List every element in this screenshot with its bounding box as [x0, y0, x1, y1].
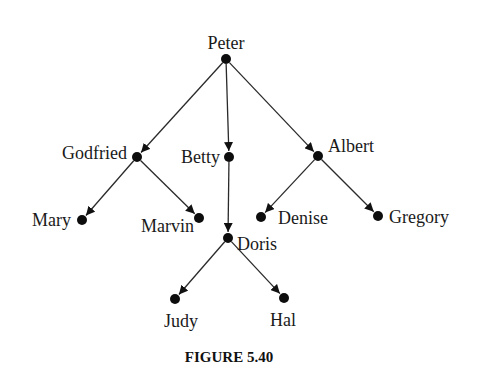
edge-peter-to-albert — [229, 63, 313, 152]
nodes-group — [77, 54, 383, 304]
node-gregory — [373, 211, 383, 221]
node-label-betty: Betty — [181, 147, 220, 167]
node-peter — [221, 54, 231, 64]
node-label-denise: Denise — [278, 208, 328, 228]
node-label-marvin: Marvin — [141, 216, 194, 236]
edge-doris-to-judy — [179, 242, 225, 295]
node-label-albert: Albert — [328, 136, 374, 156]
node-betty — [224, 152, 234, 162]
edge-albert-to-denise — [265, 160, 314, 213]
node-label-godfried: Godfried — [62, 143, 127, 163]
edge-peter-to-godfried — [141, 63, 223, 153]
node-denise — [256, 212, 266, 222]
edge-godfried-to-mary — [86, 161, 134, 216]
edges-group — [86, 63, 374, 295]
tree-diagram: PeterGodfriedBettyAlbertMaryMarvinDorisD… — [0, 0, 489, 377]
edge-peter-to-betty — [226, 64, 229, 151]
node-label-judy: Judy — [164, 311, 198, 331]
labels-group: PeterGodfriedBettyAlbertMaryMarvinDorisD… — [32, 33, 449, 331]
node-label-doris: Doris — [237, 234, 277, 254]
node-label-peter: Peter — [208, 33, 245, 53]
edge-albert-to-gregory — [322, 160, 374, 212]
node-judy — [170, 294, 180, 304]
edge-godfried-to-marvin — [141, 161, 195, 214]
node-godfried — [132, 152, 142, 162]
figure-caption: FIGURE 5.40 — [185, 349, 273, 365]
node-label-mary: Mary — [32, 210, 71, 230]
node-albert — [313, 151, 323, 161]
node-label-gregory: Gregory — [389, 207, 449, 227]
node-doris — [223, 233, 233, 243]
node-label-hal: Hal — [270, 310, 296, 330]
node-mary — [77, 215, 87, 225]
edge-betty-to-doris — [228, 162, 229, 232]
node-marvin — [194, 213, 204, 223]
node-hal — [279, 293, 289, 303]
